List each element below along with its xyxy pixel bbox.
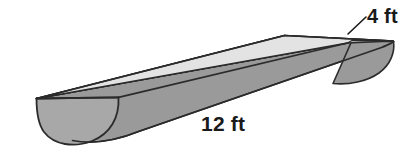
geometry-figure: 4 ft 12 ft xyxy=(0,0,418,158)
length-dimension-label: 12 ft xyxy=(201,113,245,134)
width-dimension-label: 4 ft xyxy=(367,6,398,26)
left-end-cap-rim-edge xyxy=(37,97,119,98)
